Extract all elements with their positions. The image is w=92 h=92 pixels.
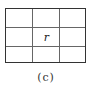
figure-caption: (c)	[0, 71, 92, 84]
center-cell-label: r	[33, 28, 60, 46]
grid-horizontal-line-2	[6, 46, 85, 47]
grid-3x3: r	[5, 8, 86, 63]
